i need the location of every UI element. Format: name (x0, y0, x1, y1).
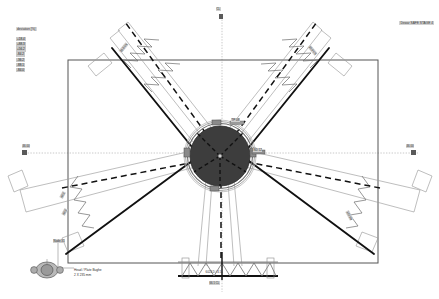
bottom-truss (178, 252, 278, 280)
detail-left-lug (31, 267, 38, 274)
heavy-edge-upper-right (245, 48, 329, 152)
beam-lower-left (8, 150, 199, 252)
centerline-label-left: 46.00 (22, 144, 30, 148)
annotation-hub-top: TP 08 (231, 118, 240, 122)
centerline-label-top: CL (216, 7, 221, 11)
centerline-marker-top (219, 14, 223, 19)
legend-row: +56.2 (16, 47, 26, 51)
annotation-hub-right: ND 12 (253, 148, 262, 152)
beam-lower-right (242, 150, 432, 252)
beam-upper-left (88, 22, 214, 148)
beam-upper-right (227, 22, 352, 148)
hub-center-node (218, 154, 222, 158)
legend-row: +88.3 (16, 42, 26, 46)
centerline-label-right: 46.00 (406, 144, 414, 148)
drawing-canvas: deviation [%] +18.4 +88.3 +56.2 -84.2 -3… (0, 0, 439, 299)
legend-row: -88.1 (16, 63, 25, 67)
legend-row: -36.2 (16, 58, 25, 62)
beam-lower-center (198, 180, 242, 266)
heavy-edge-lower-right (245, 158, 374, 254)
detail-right-lug (57, 267, 64, 274)
centerline-marker-left (22, 150, 27, 155)
legend-title: deviation [%] (16, 27, 37, 31)
detail-caption-line-2: 2 X 235 mm (74, 273, 102, 278)
annotation-truss: 6024 D / 4.5 (205, 270, 222, 274)
detail-caption: Head / Plate Bughe 2 X 235 mm (74, 268, 102, 278)
legend-row: -84.2 (16, 52, 25, 56)
heavy-edge-upper-left (112, 48, 196, 152)
cad-drawing-svg (0, 0, 439, 299)
legend-row: -84.0 (16, 68, 25, 72)
dashed-line-upper-right (224, 22, 317, 150)
central-hub (184, 120, 265, 192)
truss-web-members (182, 263, 276, 276)
detail-view-bushing (31, 242, 74, 278)
centerline-label-bottom: 66.5 CL (209, 281, 220, 285)
title-block-text: Dewar SAFE STAGE 4 (399, 21, 434, 25)
legend-row: +18.4 (16, 37, 26, 41)
detail-bore (41, 265, 53, 276)
deviation-legend: deviation [%] +18.4 +88.3 +56.2 -84.2 -3… (16, 13, 37, 72)
centerline-marker-right (411, 150, 416, 155)
title-block: Dewar SAFE STAGE 4 (399, 10, 434, 28)
heavy-edge-lower-left (66, 158, 196, 254)
annotation-arm-lower-left-3: Node 31 (53, 239, 65, 243)
